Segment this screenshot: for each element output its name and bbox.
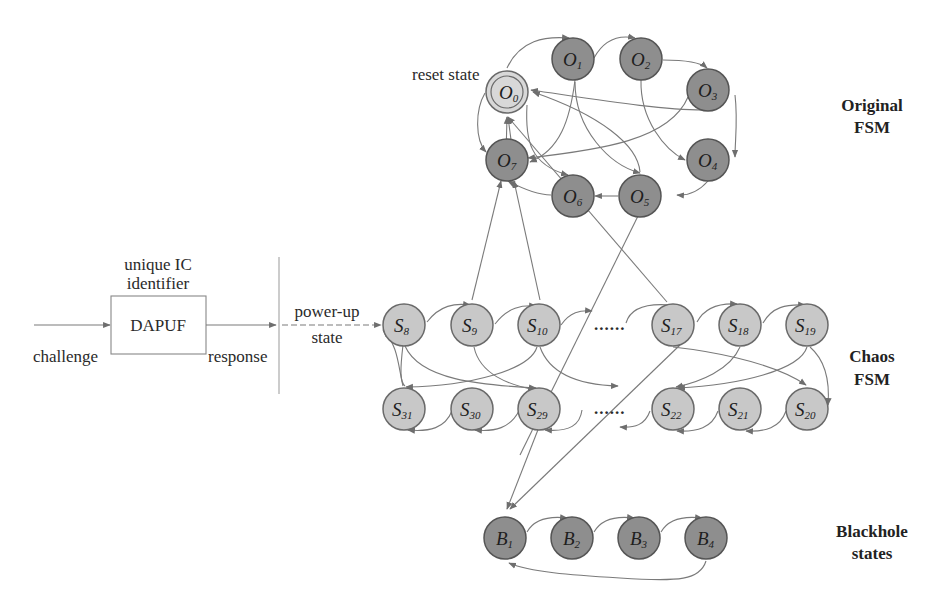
- blackhole-title-1: Blackhole: [836, 522, 908, 541]
- node-s18: S18: [719, 304, 761, 346]
- chaos-fsm-title-2: FSM: [854, 370, 890, 389]
- node-o5: O5: [619, 175, 661, 217]
- node-o6: O6: [552, 175, 594, 217]
- original-fsm-title-1: Original: [841, 96, 903, 115]
- node-s8: S8: [383, 304, 425, 346]
- dapuf-label: DAPUF: [130, 316, 186, 335]
- dapuf-block: DAPUF unique IC identifier challenge res…: [33, 255, 381, 394]
- chaos-fsm-title-1: Chaos: [849, 347, 895, 366]
- node-b3: B3: [618, 517, 660, 559]
- node-s30: S30: [451, 388, 493, 430]
- challenge-label: challenge: [33, 347, 98, 366]
- node-o0: O0: [486, 71, 528, 113]
- node-s20: S20: [786, 388, 828, 430]
- node-b4: B4: [685, 517, 727, 559]
- node-s22: S22: [652, 388, 694, 430]
- response-label: response: [208, 347, 267, 366]
- original-fsm-title-2: FSM: [854, 118, 890, 137]
- chaos-fsm-nodes: S8 S9 S10 ...... S17 S18 S19 S31 S: [383, 304, 828, 430]
- ellipsis-top: ......: [594, 315, 626, 334]
- node-s19: S19: [786, 304, 828, 346]
- dapuf-caption-2: identifier: [127, 274, 190, 293]
- reset-state-label: reset state: [412, 65, 480, 84]
- node-b1: B1: [484, 517, 526, 559]
- node-o3: O3: [687, 69, 729, 111]
- node-s31: S31: [383, 388, 425, 430]
- original-fsm-nodes: O0 O1 O2 O3 O4 O5 O6 O7 reset: [412, 38, 729, 217]
- node-o1: O1: [552, 38, 594, 80]
- powerup-label-2: state: [311, 328, 342, 347]
- dapuf-caption-1: unique IC: [124, 255, 192, 274]
- blackhole-title-2: states: [852, 544, 893, 563]
- node-s21: S21: [719, 388, 761, 430]
- node-o7: O7: [486, 139, 528, 181]
- node-s10: S10: [518, 304, 560, 346]
- blackhole-edges: [509, 517, 706, 579]
- blackhole-nodes: B1 B2 B3 B4: [484, 517, 727, 559]
- ellipsis-bottom: ......: [594, 399, 626, 418]
- node-s17: S17: [652, 304, 694, 346]
- node-b2: B2: [551, 517, 593, 559]
- node-s29: S29: [518, 388, 560, 430]
- fsm-diagram: DAPUF unique IC identifier challenge res…: [0, 0, 947, 604]
- powerup-label-1: power-up: [295, 302, 360, 321]
- node-o2: O2: [620, 38, 662, 80]
- node-o4: O4: [687, 139, 729, 181]
- node-s9: S9: [451, 304, 493, 346]
